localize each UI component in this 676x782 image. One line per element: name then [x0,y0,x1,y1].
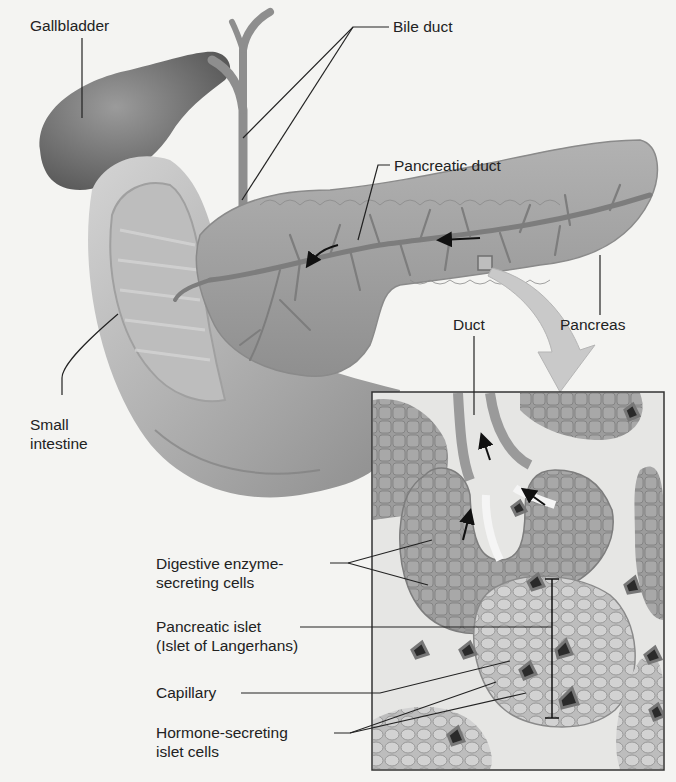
label-pancreatic-duct: Pancreatic duct [394,156,501,175]
label-bile-duct: Bile duct [393,17,452,36]
magnified-region-marker [478,256,492,270]
label-digestive-enzyme-cells: Digestive enzyme- secreting cells [156,554,284,592]
pancreas-diagram: Gallbladder Bile duct Pancreatic duct Sm… [0,0,676,782]
label-duct: Duct [453,315,485,334]
label-capillary: Capillary [156,683,216,702]
label-pancreas: Pancreas [560,315,625,334]
label-pancreatic-islet: Pancreatic islet (Islet of Langerhans) [156,617,298,655]
anatomy-illustration [0,0,676,782]
magnified-tissue-inset [372,392,664,770]
label-small-intestine: Small intestine [30,415,88,453]
label-gallbladder: Gallbladder [30,16,109,35]
label-hormone-secreting-cells: Hormone-secreting islet cells [156,723,288,761]
